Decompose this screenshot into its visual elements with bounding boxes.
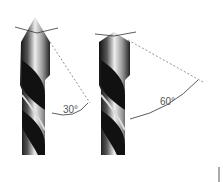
angle-label-left: 30° [63, 104, 78, 115]
drill-diagram [0, 0, 223, 182]
angle-label-right: 60° [160, 96, 175, 107]
right-drill [95, 32, 203, 155]
edge-marker [218, 167, 220, 182]
left-drill [15, 17, 90, 155]
